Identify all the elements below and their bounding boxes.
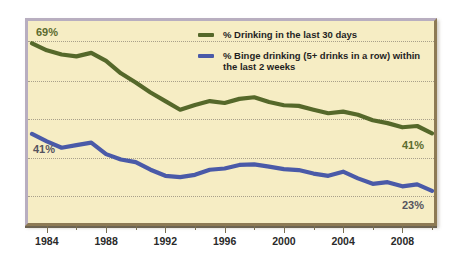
legend-item-binge: % Binge drinking (5+ drinks in a row) wi… bbox=[198, 50, 437, 73]
line-binge-drinking bbox=[32, 134, 432, 191]
legend-swatch-binge-icon bbox=[198, 54, 214, 58]
annotation-start-binge: 41% bbox=[33, 143, 55, 155]
x-tick-major bbox=[225, 226, 226, 233]
x-axis-label: 2008 bbox=[391, 235, 414, 247]
x-tick-major bbox=[165, 226, 166, 233]
x-axis-label: 2000 bbox=[272, 235, 295, 247]
x-tick-minor bbox=[254, 226, 255, 230]
legend-item-drinking: % Drinking in the last 30 days bbox=[198, 29, 437, 41]
x-tick-minor bbox=[314, 226, 315, 230]
plot-area: 69% 41% 41% 23% % Drinking in the last 3… bbox=[25, 18, 437, 226]
chart-container: 69% 41% 41% 23% % Drinking in the last 3… bbox=[0, 0, 461, 269]
plot-inner: 69% 41% 41% 23% % Drinking in the last 3… bbox=[28, 21, 434, 223]
x-tick-minor bbox=[432, 226, 433, 230]
annotation-end-drinking: 41% bbox=[402, 139, 424, 151]
x-tick-minor bbox=[136, 226, 137, 230]
x-tick-major bbox=[402, 226, 403, 233]
legend: % Drinking in the last 30 days % Binge d… bbox=[198, 29, 437, 82]
annotation-start-drinking: 69% bbox=[36, 26, 58, 38]
x-tick-minor bbox=[76, 226, 77, 230]
x-tick-minor bbox=[373, 226, 374, 230]
annotation-end-binge: 23% bbox=[402, 199, 424, 211]
x-axis-label: 1996 bbox=[213, 235, 236, 247]
x-tick-major bbox=[284, 226, 285, 233]
x-tick-minor bbox=[195, 226, 196, 230]
x-axis-label: 1988 bbox=[94, 235, 117, 247]
x-tick-major bbox=[343, 226, 344, 233]
legend-label-drinking: % Drinking in the last 30 days bbox=[223, 29, 357, 41]
x-axis-label: 1992 bbox=[154, 235, 177, 247]
x-axis-label: 2004 bbox=[331, 235, 354, 247]
legend-swatch-drinking-icon bbox=[198, 33, 214, 37]
x-axis-label: 1984 bbox=[35, 235, 58, 247]
x-tick-major bbox=[47, 226, 48, 233]
x-tick-major bbox=[106, 226, 107, 233]
x-axis-labels: 1984198819921996200020042008 bbox=[25, 235, 437, 251]
legend-label-binge: % Binge drinking (5+ drinks in a row) wi… bbox=[223, 50, 428, 73]
x-axis-ticks bbox=[25, 226, 437, 234]
